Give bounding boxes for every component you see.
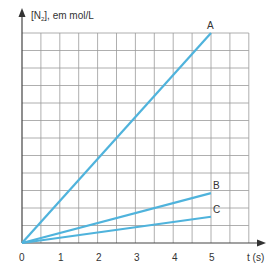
- x-tick-2: 2: [96, 252, 102, 263]
- series-label-A: A: [207, 20, 214, 31]
- series-label-C: C: [213, 204, 220, 215]
- x-axis-arrow-icon: [257, 240, 266, 247]
- chart: [N2], em mol/L t (s) 0 1 2 3 4 5 A B C: [0, 0, 278, 271]
- y-axis-label: [N2], em mol/L: [31, 10, 94, 22]
- x-axis-label: t (s): [247, 252, 264, 263]
- x-tick-3: 3: [134, 252, 140, 263]
- series-label-B: B: [213, 180, 220, 191]
- x-tick-4: 4: [172, 252, 178, 263]
- x-tick-0: 0: [19, 252, 25, 263]
- x-tick-1: 1: [58, 252, 64, 263]
- y-axis-arrow-icon: [19, 8, 26, 17]
- x-tick-5: 5: [209, 252, 215, 263]
